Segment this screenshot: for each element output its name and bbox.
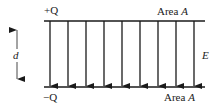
bottom-area-label: Area A [164, 92, 195, 103]
top-area-symbol: A [181, 5, 188, 17]
bottom-area-symbol: A [188, 91, 195, 103]
negative-charge-label: −Q [43, 92, 57, 103]
field-lines [50, 21, 194, 86]
top-area-text: Area [157, 5, 178, 17]
field-label: E [202, 50, 209, 61]
top-area-label: Area A [157, 6, 188, 17]
positive-charge-label: +Q [44, 5, 58, 16]
bottom-area-text: Area [164, 91, 185, 103]
separation-label: d [13, 49, 19, 62]
